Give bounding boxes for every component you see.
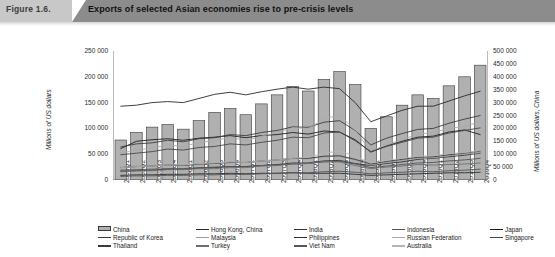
y-tick-left-label: 0 xyxy=(64,176,108,183)
y-axis-left-title: Millions of US dollars xyxy=(45,89,52,150)
y-tick-right-label: 400 000 xyxy=(493,73,539,80)
legend-label: Turkey xyxy=(211,241,230,250)
plot-area xyxy=(113,51,488,180)
legend-swatch-line xyxy=(392,237,405,239)
legend-swatch-line xyxy=(490,229,503,231)
bar-2005Q2 xyxy=(131,132,143,180)
figure-number: Figure 1.6. xyxy=(6,4,51,14)
y-tick-right-label: 200 000 xyxy=(493,124,539,131)
bar-2007Q3 xyxy=(271,95,283,180)
chart-legend: ChinaHong Kong, ChinaIndiaIndonesiaJapan… xyxy=(98,225,538,255)
y-tick-right-label: 500 000 xyxy=(493,47,539,54)
line-viet-nam xyxy=(121,169,480,176)
bar-2009Q1 xyxy=(365,128,377,180)
bar-2005Q3 xyxy=(146,127,158,180)
bar-2006Q1 xyxy=(178,129,190,180)
line-republic-of-korea xyxy=(121,116,480,147)
chart-canvas xyxy=(113,51,488,180)
legend-swatch-line xyxy=(98,237,111,239)
bar-2005Q4 xyxy=(162,125,174,180)
y-tick-left-label: 150 000 xyxy=(64,99,108,106)
figure-banner: Figure 1.6. Exports of selected Asian ec… xyxy=(0,0,555,22)
line-indonesia xyxy=(121,158,480,170)
banner-shadow xyxy=(0,22,555,26)
y-tick-left-label: 250 000 xyxy=(64,47,108,54)
figure-title: Exports of selected Asian economies rise… xyxy=(88,4,353,14)
legend-swatch-line xyxy=(294,245,307,247)
legend-swatch-bar xyxy=(98,226,111,231)
legend-swatch-line xyxy=(392,245,405,247)
legend-swatch-line xyxy=(294,229,307,231)
legend-swatch-line xyxy=(98,245,111,247)
bar-2007Q1 xyxy=(240,115,252,180)
legend-swatch-line xyxy=(196,237,209,239)
line-hong-kong-china xyxy=(121,87,480,122)
figure-container: Figure 1.6. Exports of selected Asian ec… xyxy=(0,0,555,257)
bar-2010Q1 xyxy=(428,98,440,180)
y-tick-right-label: 0 xyxy=(493,176,539,183)
y-tick-right-label: 450 000 xyxy=(493,60,539,67)
legend-swatch-line xyxy=(294,237,307,239)
bar-2009Q2 xyxy=(381,117,393,180)
legend-label: Singapore xyxy=(505,233,534,242)
bar-2008Q2 xyxy=(318,79,330,180)
y-tick-right-label: 150 000 xyxy=(493,137,539,144)
bar-2008Q1 xyxy=(303,91,315,180)
y-tick-right-label: 250 000 xyxy=(493,112,539,119)
y-tick-right-label: 350 000 xyxy=(493,86,539,93)
y-tick-right-label: 100 000 xyxy=(493,150,539,157)
line-russian-federation xyxy=(121,115,480,153)
y-tick-right-label: 50 000 xyxy=(493,163,539,170)
legend-swatch-line xyxy=(196,229,209,231)
legend-label: Australia xyxy=(407,241,432,250)
legend-swatch-line xyxy=(392,229,405,231)
legend-swatch-line xyxy=(490,237,503,239)
y-tick-left-label: 100 000 xyxy=(64,124,108,131)
bar-2006Q2 xyxy=(193,121,205,180)
legend-swatch-line xyxy=(196,245,209,247)
y-tick-right-label: 300 000 xyxy=(493,99,539,106)
legend-label: Viet Nam xyxy=(309,241,335,250)
y-tick-left-label: 200 000 xyxy=(64,73,108,80)
legend-label: Thailand xyxy=(113,241,137,250)
y-tick-left-label: 50 000 xyxy=(64,150,108,157)
